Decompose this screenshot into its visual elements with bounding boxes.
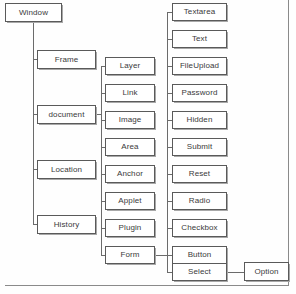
node-password[interactable]: Password — [172, 84, 227, 102]
node-plugin-label: Plugin — [119, 224, 142, 232]
node-hidden-label: Hidden — [187, 116, 213, 124]
node-button-label: Button — [188, 251, 212, 259]
node-select-label: Select — [188, 268, 211, 276]
node-plugin[interactable]: Plugin — [105, 219, 155, 237]
node-area-label: Area — [121, 143, 138, 151]
node-submit[interactable]: Submit — [172, 138, 227, 156]
node-frame[interactable]: Frame — [37, 50, 96, 69]
node-applet[interactable]: Applet — [105, 192, 155, 210]
node-password-label: Password — [182, 89, 218, 97]
node-location[interactable]: Location — [37, 160, 96, 179]
node-location-label: Location — [51, 166, 82, 174]
node-button[interactable]: Button — [172, 246, 227, 264]
node-submit-label: Submit — [187, 143, 213, 151]
node-textarea[interactable]: Textarea — [172, 3, 227, 21]
node-anchor[interactable]: Anchor — [105, 165, 155, 183]
node-anchor-label: Anchor — [117, 170, 143, 178]
node-checkbox-label: Checkbox — [181, 224, 217, 232]
node-text-label: Text — [192, 35, 207, 43]
edge-form-trunk — [167, 12, 168, 272]
node-radio[interactable]: Radio — [172, 192, 227, 210]
node-image-label: Image — [119, 116, 142, 124]
node-hidden[interactable]: Hidden — [172, 111, 227, 129]
node-select[interactable]: Select — [172, 263, 227, 281]
node-fileupload-label: FileUpload — [180, 62, 219, 70]
node-frame-label: Frame — [55, 56, 79, 64]
frame-border-right — [288, 0, 289, 286]
edge-window-trunk — [33, 22, 34, 225]
node-reset[interactable]: Reset — [172, 165, 227, 183]
node-text[interactable]: Text — [172, 30, 227, 48]
node-history-label: History — [54, 221, 80, 229]
node-document-label: document — [49, 111, 85, 119]
node-document[interactable]: document — [37, 105, 96, 124]
node-link[interactable]: Link — [105, 84, 155, 102]
diagram-canvas: Window Frame document Location History L… — [0, 0, 296, 294]
node-area[interactable]: Area — [105, 138, 155, 156]
node-option-label: Option — [254, 268, 278, 276]
node-window-label: Window — [19, 9, 48, 17]
node-window[interactable]: Window — [5, 3, 62, 22]
node-layer[interactable]: Layer — [105, 57, 155, 75]
node-checkbox[interactable]: Checkbox — [172, 219, 227, 237]
node-fileupload[interactable]: FileUpload — [172, 57, 227, 75]
node-layer-label: Layer — [120, 62, 141, 70]
node-form-label: Form — [120, 251, 139, 259]
edge-document-trunk — [101, 66, 102, 255]
edge-select-option — [227, 272, 245, 273]
node-link-label: Link — [122, 89, 137, 97]
node-radio-label: Radio — [189, 197, 210, 205]
node-form[interactable]: Form — [105, 246, 155, 264]
node-image[interactable]: Image — [105, 111, 155, 129]
node-reset-label: Reset — [189, 170, 210, 178]
node-textarea-label: Textarea — [184, 8, 215, 16]
frame-border-bottom — [5, 285, 289, 286]
node-option[interactable]: Option — [244, 262, 289, 281]
node-history[interactable]: History — [37, 215, 96, 234]
node-applet-label: Applet — [118, 197, 141, 205]
